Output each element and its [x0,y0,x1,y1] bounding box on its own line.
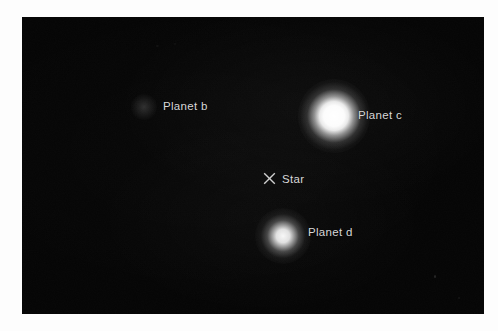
background-speck [174,43,176,45]
background-speck [458,297,460,299]
background-speck [156,45,159,47]
star-marker-group: Star [263,172,304,185]
star-label: Star [282,173,304,185]
sky-grain-overlay [22,17,484,314]
cross-marker-icon [263,172,276,185]
background-speck [434,275,436,278]
planet-b-label: Planet b [163,100,208,112]
sky-background-gradient [22,17,484,314]
planet-b-point-source [131,94,157,120]
planet-c-label: Planet c [358,109,402,121]
figure-stage: Planet b Planet c Planet d Star [0,0,498,331]
sky-image-panel: Planet b Planet c Planet d Star [22,17,484,314]
planet-d-point-source [255,208,311,264]
planet-d-label: Planet d [308,226,353,238]
